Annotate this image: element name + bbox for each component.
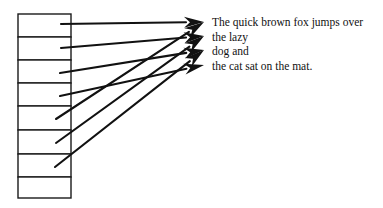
text-line: the cat sat on the mat. bbox=[212, 59, 363, 74]
text-line: dog and bbox=[212, 44, 363, 59]
memory-cell bbox=[18, 177, 71, 198]
cell-stack bbox=[18, 14, 71, 198]
pointer-line bbox=[55, 61, 190, 167]
memory-cell bbox=[18, 130, 71, 154]
memory-cell bbox=[18, 154, 71, 177]
text-line: the lazy bbox=[212, 30, 363, 45]
pointer-line bbox=[56, 32, 189, 119]
pointer-line bbox=[61, 22, 186, 24]
pointer-arrows bbox=[55, 17, 204, 167]
pointer-line bbox=[60, 69, 186, 96]
text-block: The quick brown fox jumps over the lazy … bbox=[212, 15, 363, 73]
memory-cell bbox=[18, 14, 71, 37]
pointer-line bbox=[56, 47, 189, 143]
memory-cell bbox=[18, 106, 71, 130]
text-line: The quick brown fox jumps over bbox=[212, 15, 363, 30]
